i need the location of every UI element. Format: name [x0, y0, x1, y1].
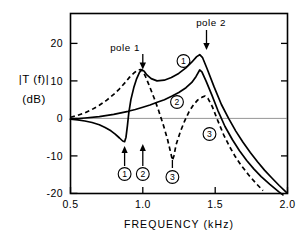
- x-tick-label-0-5: 0.5: [63, 198, 79, 210]
- y-axis-title-unit: (dB): [22, 93, 46, 105]
- annotation-zero-3: 3: [166, 160, 179, 183]
- zero-1-arrow-icon: [122, 146, 128, 153]
- zero-1-label: 1: [122, 169, 127, 179]
- y-tick-label-20: 20: [51, 37, 63, 49]
- inline-label-3: 3: [203, 128, 216, 141]
- curve-series-2: [71, 70, 283, 195]
- pole-1-label: pole 1: [110, 42, 140, 53]
- curve-series-1: [71, 55, 287, 193]
- zero-2-arrow-icon: [140, 144, 146, 151]
- x-axis-title: FREQUENCY (kHz): [124, 218, 234, 230]
- inline-label-3-text: 3: [207, 129, 212, 139]
- pole-1-arrow-icon: [140, 63, 146, 70]
- zero-3-label: 3: [170, 172, 175, 182]
- annotation-zero-2: 2: [136, 144, 149, 180]
- transfer-function-magnitude-chart: 20 10 0 -10 -20 0.5 1.0 1.5 2.0 FREQUENC…: [0, 0, 307, 241]
- annotation-pole-1: pole 1: [110, 42, 146, 70]
- y-tick-label-minus20: -20: [47, 187, 63, 199]
- x-tick-label-1-0: 1.0: [135, 198, 151, 210]
- pole-2-arrow-icon: [203, 43, 209, 50]
- y-tick-label-minus10: -10: [47, 150, 63, 162]
- zero-2-label: 2: [140, 169, 145, 179]
- y-tick-label-10: 10: [51, 75, 63, 87]
- pole-2-label: pole 2: [196, 17, 226, 28]
- inline-label-1-text: 1: [181, 56, 186, 66]
- y-axis-title-main: |T (f)|: [19, 73, 49, 85]
- inline-label-2-text: 2: [175, 97, 180, 107]
- x-axis-ticks: [71, 187, 288, 194]
- curve-series-3: [71, 70, 264, 191]
- annotation-pole-2: pole 2: [196, 17, 226, 50]
- annotation-zero-1: 1: [118, 146, 131, 180]
- figure-container: 20 10 0 -10 -20 0.5 1.0 1.5 2.0 FREQUENC…: [0, 0, 307, 241]
- x-tick-label-2-0: 2.0: [280, 198, 296, 210]
- y-tick-label-0: 0: [57, 112, 63, 124]
- inline-label-1: 1: [177, 55, 190, 68]
- inline-label-2: 2: [171, 96, 184, 109]
- x-tick-label-1-5: 1.5: [207, 198, 223, 210]
